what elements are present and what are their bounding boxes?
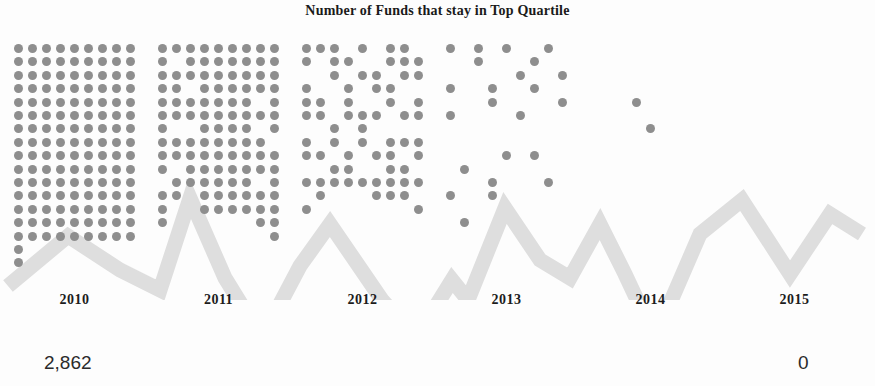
fund-dot: [14, 84, 23, 93]
fund-dot: [270, 218, 279, 227]
fund-dot: [112, 71, 121, 80]
year-panel-2010[interactable]: 2010: [8, 38, 141, 338]
fund-dot: [14, 124, 23, 133]
fund-dot: [42, 218, 51, 227]
fund-dot: [126, 218, 135, 227]
fund-dot: [84, 151, 93, 160]
fund-dot: [14, 165, 23, 174]
year-panel-2011[interactable]: 2011: [152, 38, 285, 338]
fund-dot: [158, 218, 167, 227]
fund-dot: [214, 57, 223, 66]
fund-dot: [112, 151, 121, 160]
fund-dot: [488, 191, 497, 200]
fund-dot: [14, 111, 23, 120]
fund-dot: [330, 44, 339, 53]
fund-dot: [372, 84, 381, 93]
fund-dot: [158, 151, 167, 160]
fund-dot: [186, 111, 195, 120]
fund-dot: [242, 205, 251, 214]
fund-dot: [302, 111, 311, 120]
fund-dot: [316, 151, 325, 160]
fund-dot: [56, 178, 65, 187]
fund-dot: [344, 151, 353, 160]
fund-dot: [256, 138, 265, 147]
fund-dot: [56, 84, 65, 93]
fund-dot: [214, 178, 223, 187]
fund-dot: [28, 218, 37, 227]
fund-dot: [56, 57, 65, 66]
fund-dot: [200, 151, 209, 160]
fund-dot: [42, 165, 51, 174]
fund-dot: [488, 178, 497, 187]
fund-dot: [28, 57, 37, 66]
year-panel-2014[interactable]: 2014: [584, 38, 717, 338]
fund-dot: [358, 111, 367, 120]
fund-dot: [302, 84, 311, 93]
fund-dot: [42, 111, 51, 120]
fund-dot: [200, 124, 209, 133]
fund-dot: [14, 98, 23, 107]
fund-dot: [172, 138, 181, 147]
fund-dot: [112, 232, 121, 241]
fund-dot: [214, 151, 223, 160]
fund-dot: [330, 138, 339, 147]
fund-dot: [112, 84, 121, 93]
fund-dot: [186, 165, 195, 174]
year-label-2010: 2010: [8, 292, 141, 308]
fund-dot: [70, 138, 79, 147]
fund-dot: [372, 71, 381, 80]
fund-dot: [344, 84, 353, 93]
fund-dot: [84, 165, 93, 174]
fund-dot: [488, 84, 497, 93]
fund-dot: [358, 138, 367, 147]
fund-dot: [242, 191, 251, 200]
fund-dot: [14, 205, 23, 214]
fund-dot: [56, 111, 65, 120]
fund-dot: [126, 98, 135, 107]
fund-dot: [344, 57, 353, 66]
fund-dot: [98, 44, 107, 53]
fund-dot: [112, 205, 121, 214]
fund-dot: [270, 178, 279, 187]
fund-dot: [98, 71, 107, 80]
fund-dot: [70, 57, 79, 66]
fund-dot: [186, 71, 195, 80]
fund-dot: [302, 44, 311, 53]
fund-dot: [172, 98, 181, 107]
fund-dot: [84, 98, 93, 107]
fund-dot: [200, 178, 209, 187]
fund-dot: [42, 71, 51, 80]
fund-dot: [386, 191, 395, 200]
fund-dot: [242, 98, 251, 107]
fund-dot: [302, 98, 311, 107]
fund-dot: [414, 205, 423, 214]
fund-dot: [172, 111, 181, 120]
fund-dot: [214, 191, 223, 200]
fund-dot: [28, 71, 37, 80]
fund-dot: [256, 151, 265, 160]
fund-dot: [84, 84, 93, 93]
dot-grid-2014: [584, 42, 717, 264]
fund-dot: [242, 178, 251, 187]
fund-dot: [302, 138, 311, 147]
fund-dot: [172, 84, 181, 93]
year-panel-2012[interactable]: 2012: [296, 38, 429, 338]
fund-dot: [126, 151, 135, 160]
fund-dot: [228, 191, 237, 200]
panel-container: 201020112012201320142015: [0, 38, 875, 338]
year-panel-2013[interactable]: 2013: [440, 38, 573, 338]
fund-dot: [98, 138, 107, 147]
fund-dot: [98, 151, 107, 160]
fund-dot: [42, 232, 51, 241]
fund-dot: [158, 191, 167, 200]
fund-dot: [126, 138, 135, 147]
fund-dot: [98, 57, 107, 66]
fund-dot: [98, 191, 107, 200]
fund-dot: [42, 178, 51, 187]
fund-dot: [70, 232, 79, 241]
fund-dot: [126, 44, 135, 53]
year-panel-2015[interactable]: 2015: [728, 38, 861, 338]
fund-dot: [112, 111, 121, 120]
fund-dot: [42, 138, 51, 147]
fund-dot: [256, 218, 265, 227]
